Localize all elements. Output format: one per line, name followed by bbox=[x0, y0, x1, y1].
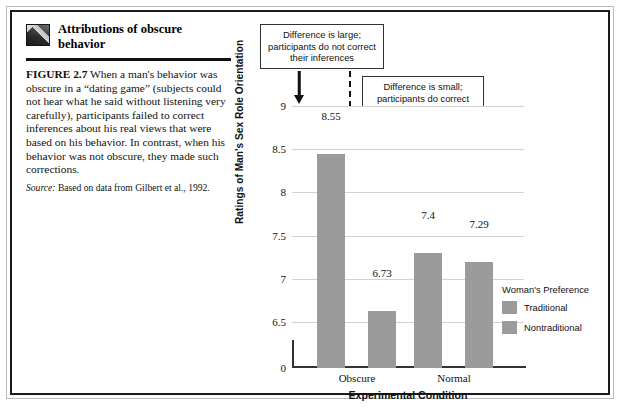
caption-column: Attributions of obscure behavior FIGURE … bbox=[26, 22, 231, 194]
header-row: Attributions of obscure behavior bbox=[26, 22, 231, 52]
legend-title: Woman's Preference bbox=[502, 284, 598, 295]
figure-page: Attributions of obscure behavior FIGURE … bbox=[0, 0, 622, 407]
value-label-8-55: 8.55 bbox=[321, 110, 340, 122]
figure-caption-text: When a man's behavior was obscure in a “… bbox=[26, 68, 226, 175]
gridline bbox=[292, 106, 524, 107]
x-axis-label: Experimental Condition bbox=[349, 389, 468, 401]
y-tick-7-5: 7.5 bbox=[272, 230, 286, 242]
value-label-6-73: 6.73 bbox=[372, 267, 391, 279]
x-tick-obscure: Obscure bbox=[339, 372, 376, 384]
y-tick-8-5: 8.5 bbox=[272, 143, 286, 155]
bar-normal-nontraditional bbox=[465, 262, 493, 368]
y-tick-7: 7 bbox=[281, 273, 287, 285]
value-label-7-29: 7.29 bbox=[469, 218, 488, 230]
legend-item-nontraditional: Nontraditional bbox=[502, 321, 598, 334]
bar-obscure-nontraditional bbox=[368, 311, 396, 368]
legend-label-nontraditional: Nontraditional bbox=[524, 322, 582, 333]
value-label-7-4: 7.4 bbox=[421, 209, 435, 221]
legend-label-traditional: Traditional bbox=[524, 302, 567, 313]
gridline bbox=[292, 149, 524, 150]
y-axis-label: Ratings of Man's Sex Role Orientation bbox=[234, 40, 245, 224]
figure-source: Source: Based on data from Gilbert et al… bbox=[26, 182, 231, 194]
y-tick-0: 0 bbox=[281, 362, 287, 374]
figure-number: FIGURE 2.7 bbox=[26, 68, 87, 80]
source-text: Based on data from Gilbert et al., 1992. bbox=[58, 182, 210, 193]
section-title: Attributions of obscure behavior bbox=[58, 22, 231, 52]
bar-normal-traditional bbox=[414, 253, 442, 368]
divider-rule bbox=[26, 58, 231, 61]
legend: Woman's Preference Traditional Nontradit… bbox=[502, 284, 598, 341]
bar-obscure-traditional bbox=[317, 154, 345, 368]
source-label: Source: bbox=[26, 182, 55, 193]
legend-swatch-traditional bbox=[502, 301, 517, 314]
y-tick-6-5: 6.5 bbox=[272, 316, 286, 328]
figure-caption: FIGURE 2.7 When a man's behavior was obs… bbox=[26, 68, 231, 177]
x-tick-normal: Normal bbox=[437, 372, 471, 384]
y-tick-8: 8 bbox=[281, 186, 287, 198]
callout-large: Difference is large; participants do not… bbox=[260, 24, 384, 69]
y-tick-9: 9 bbox=[281, 100, 287, 112]
bar-chart: Difference is large; participants do not… bbox=[236, 18, 592, 378]
legend-item-traditional: Traditional bbox=[502, 301, 598, 314]
figure-thumbnail-icon bbox=[26, 24, 50, 46]
legend-swatch-nontraditional bbox=[502, 321, 517, 334]
plot-area: 9 8.5 8 7.5 7 6.5 0 8.55 6.73 7.4 7.29 bbox=[292, 106, 524, 340]
